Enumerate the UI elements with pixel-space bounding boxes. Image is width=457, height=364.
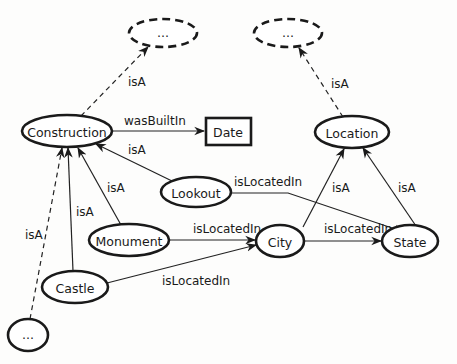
svg-text:...: ... [22, 327, 34, 342]
node-top-right-more: ... [254, 19, 322, 47]
edge-castle-isa-construction: isA [68, 148, 95, 271]
edge-label: isA [398, 181, 417, 195]
edge-label: isA [331, 77, 350, 91]
edge-location-isa-more: isA [299, 48, 350, 117]
edge-label: isA [25, 228, 44, 242]
edge-label: isA [128, 75, 147, 89]
edge-label: isA [128, 143, 147, 157]
node-monument: Monument [89, 224, 169, 256]
svg-text:Date: Date [213, 125, 243, 140]
svg-text:...: ... [282, 25, 294, 40]
node-construction: Construction [22, 115, 112, 147]
svg-text:Location: Location [326, 126, 379, 141]
edge-label: isA [76, 205, 95, 219]
node-lookout: Lookout [161, 177, 231, 207]
edge-monument-islocatedin-city: isLocatedIn [169, 222, 261, 240]
edge-label: isLocatedIn [324, 222, 392, 236]
edge-city-islocatedin-state: isLocatedIn [304, 222, 392, 241]
edge-city-isa-location: isA [303, 149, 351, 227]
svg-text:Monument: Monument [96, 234, 163, 249]
node-location: Location [315, 116, 389, 148]
edge-label: isLocatedIn [193, 222, 261, 236]
edge-label: isA [107, 181, 126, 195]
ontology-diagram: isA isA wasBuiltIn isA isA isA isA isLoc… [0, 0, 457, 364]
node-date: Date [206, 118, 251, 145]
svg-text:State: State [393, 235, 426, 250]
edge-state-isa-location: isA [363, 148, 417, 226]
node-castle: Castle [42, 271, 108, 303]
edge-construction-wasbuiltin-date: wasBuiltIn [112, 114, 204, 131]
svg-text:...: ... [157, 25, 169, 40]
svg-text:Castle: Castle [56, 281, 95, 296]
node-state: State [382, 225, 438, 257]
edge-construction-isa-more: isA [81, 47, 148, 116]
edge-label: isA [332, 181, 351, 195]
edge-label: isLocatedIn [162, 274, 230, 288]
svg-text:Construction: Construction [27, 125, 107, 140]
svg-text:City: City [268, 235, 293, 250]
edge-lookout-isa-construction: isA [96, 143, 172, 181]
node-top-left-more: ... [129, 19, 197, 47]
node-bottom-left-more: ... [8, 319, 48, 351]
edge-label: isLocatedIn [234, 175, 302, 189]
svg-text:Lookout: Lookout [171, 186, 220, 201]
node-city: City [256, 225, 304, 257]
edge-label: wasBuiltIn [124, 114, 186, 128]
